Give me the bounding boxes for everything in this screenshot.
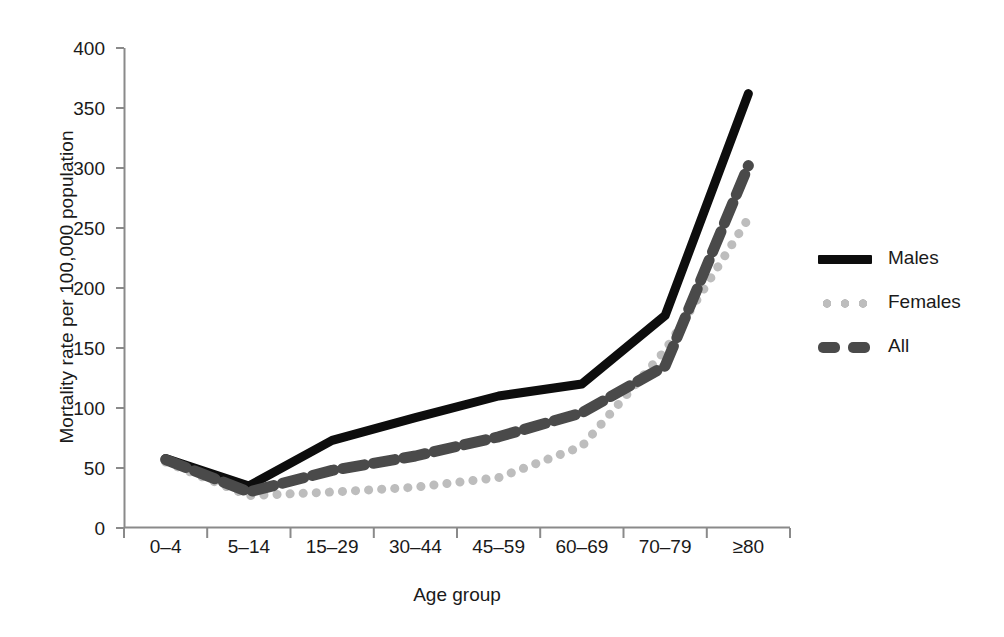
chart-legend: Males Females All [818, 236, 998, 368]
x-tick-60-69: 60–69 [555, 536, 608, 558]
legend-swatch-males-solid-line-icon [818, 255, 872, 264]
legend-label-males: Males [888, 247, 939, 269]
legend-item-all: All [818, 324, 998, 368]
x-tick-30-44: 30–44 [389, 536, 442, 558]
legend-label-females: Females [888, 291, 961, 313]
x-tick-5-14: 5–14 [228, 536, 270, 558]
series-line-females [166, 218, 749, 495]
data-series-layer [166, 94, 749, 496]
legend-swatch-females-dotted-line-icon [818, 299, 872, 308]
legend-item-males: Males [818, 236, 998, 280]
mortality-rate-line-chart: Mortality rate per 100,000 population 40… [0, 0, 1004, 637]
x-tick-15-29: 15–29 [306, 536, 359, 558]
x-tick-80-plus: ≥80 [733, 536, 765, 558]
legend-item-females: Females [818, 280, 998, 324]
legend-label-all: All [888, 335, 909, 357]
legend-swatch-all-dashed-line-icon [818, 341, 872, 352]
series-line-males [166, 94, 749, 486]
x-tick-70-79: 70–79 [639, 536, 692, 558]
x-tick-0-4: 0–4 [150, 536, 182, 558]
x-tick-45-59: 45–59 [472, 536, 525, 558]
series-line-all [166, 166, 749, 492]
axis-lines [116, 48, 790, 538]
x-axis-title: Age group [124, 584, 790, 606]
x-axis-tick-labels: 0–4 5–14 15–29 30–44 45–59 60–69 70–79 ≥… [124, 536, 790, 566]
